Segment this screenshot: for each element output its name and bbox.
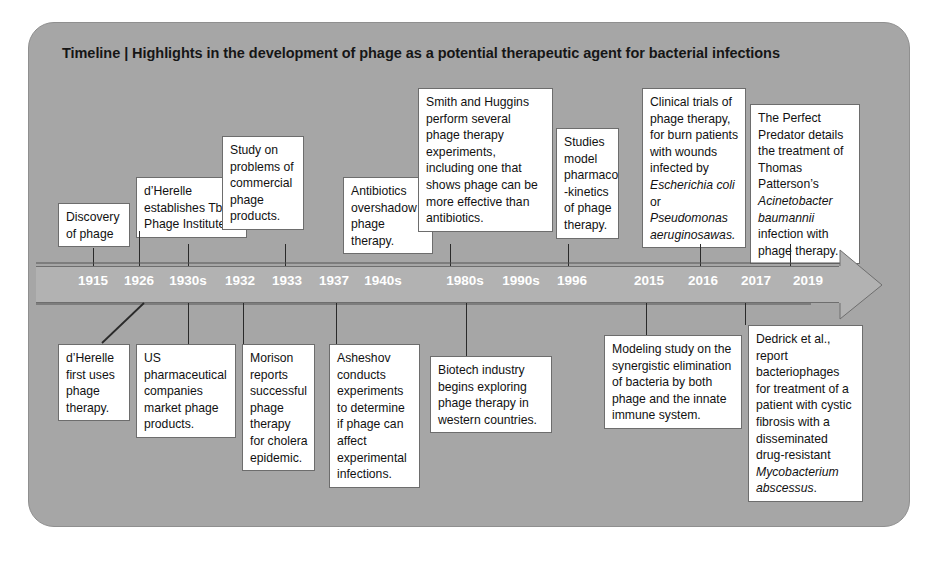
event-text: Discovery of phage (66, 210, 120, 241)
connector-stem-2016-above (700, 244, 701, 266)
connector-stem-1932-below (243, 303, 244, 344)
event-text: US pharmaceutical companies market phage… (144, 351, 227, 431)
event-box-us-pharma-market: US pharmaceutical companies market phage… (136, 344, 236, 438)
connector-stem-1930s-above (188, 244, 189, 266)
year-label-1940s: 1940s (352, 273, 414, 288)
species-name-mycobacterium-abscessus: Mycobacterium abscessus (756, 465, 839, 496)
year-label-1996: 1996 (543, 273, 601, 288)
year-label-2017: 2017 (727, 273, 785, 288)
event-text: Biotech industry begins exploring phage … (438, 363, 537, 427)
event-box-pharmacokinetics: Studies model pharmaco -kinetics of phag… (556, 128, 619, 239)
connector-stem-2015-below (646, 303, 647, 335)
event-box-modeling-synergy: Modeling study on the synergistic elimin… (604, 335, 742, 429)
event-box-commercial-products: Study on problems of commercial phage pr… (222, 136, 304, 230)
event-box-perfect-predator: The Perfect Predator details the treatme… (750, 104, 860, 264)
connector-stem-1930s-below (188, 303, 189, 344)
event-text: Asheshov conducts experiments to determi… (337, 351, 407, 481)
figure-title: Timeline | Highlights in the development… (62, 45, 862, 61)
year-label-2019: 2019 (779, 273, 837, 288)
species-name-escherichia-coli: Escherichia coli (650, 178, 735, 192)
event-text-part1: The Perfect Predator details the treatme… (758, 111, 843, 191)
connector-stem-1990s-below (466, 303, 467, 356)
event-text: Antibiotics overshadow phage therapy. (351, 184, 417, 248)
event-text-part2: . (814, 481, 817, 495)
event-text-part2: infection with phage therapy. (758, 227, 838, 258)
species-name-acinetobacter-baumannii: Acinetobacter baumannii (758, 194, 833, 225)
connector-stem-1980s-above (450, 244, 451, 266)
year-label-2016: 2016 (674, 273, 732, 288)
event-box-dedrick-cystic-fibrosis: Dedrick et al., report bacteriophages fo… (748, 325, 863, 502)
event-text: Morison reports successful phage therapy… (250, 351, 308, 465)
year-label-2015: 2015 (620, 273, 678, 288)
event-text: Studies model pharmaco -kinetics of phag… (564, 135, 618, 232)
event-box-discovery-of-phage: Discovery of phage (58, 203, 130, 247)
event-text-part1: Clinical trials of phage therapy, for bu… (650, 95, 738, 175)
event-box-clinical-trials-burns: Clinical trials of phage therapy, for bu… (642, 88, 746, 248)
connector-stem-1926-above (139, 231, 140, 266)
event-box-morison-cholera: Morison reports successful phage therapy… (242, 344, 315, 471)
event-box-smith-huggins: Smith and Huggins perform several phage … (418, 88, 553, 232)
year-label-1980s: 1980s (434, 273, 496, 288)
event-text: d’Herelle first uses phage therapy. (66, 351, 115, 415)
event-text: Modeling study on the synergistic elimin… (612, 342, 731, 422)
connector-stem-1996-above (568, 244, 569, 266)
event-text-part1: Dedrick et al., report bacteriophages fo… (756, 332, 852, 462)
event-text: Smith and Huggins perform several phage … (426, 95, 538, 225)
event-box-asheshov-experiments: Asheshov conducts experiments to determi… (329, 344, 420, 488)
event-text-part2: or (650, 195, 661, 209)
year-label-1930s: 1930s (157, 273, 219, 288)
connector-stem-2017-below (745, 303, 746, 325)
species-name-pseudomonas-aeruginosa: Pseudomonas aeruginosawas. (650, 211, 735, 242)
connector-stem-2019-above (790, 244, 791, 266)
connector-stem-1915-above (93, 248, 94, 266)
event-box-dherelle-first-use: d’Herelle first uses phage therapy. (58, 344, 130, 421)
connector-stem-1933-below (336, 303, 337, 344)
event-box-biotech-industry: Biotech industry begins exploring phage … (430, 356, 552, 433)
event-text: Study on problems of commercial phage pr… (230, 143, 294, 223)
timeline-figure: Timeline | Highlights in the development… (0, 0, 928, 561)
connector-stem-1937-above (285, 244, 286, 266)
